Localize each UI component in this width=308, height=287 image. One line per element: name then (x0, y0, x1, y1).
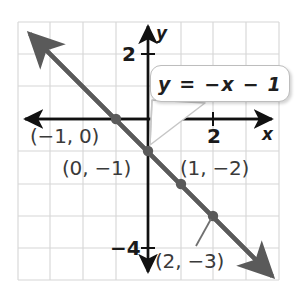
point-1-neg2 (176, 179, 186, 189)
point-label-0-neg1: (0, −1) (62, 158, 131, 178)
point-2-neg3 (208, 211, 218, 221)
point-0-neg1 (143, 146, 153, 156)
x-tick-label-2: 2 (207, 126, 221, 146)
equation-callout: y = −x − 1 (150, 65, 290, 102)
y-axis-label: y (156, 25, 167, 42)
coordinate-graph-figure: y = −x − 1 2 −4 2 y x (−1, 0) (0, −1) (1… (0, 0, 308, 287)
equation-text: y = −x − 1 (158, 73, 282, 95)
y-tick-label-neg4: −4 (110, 238, 141, 258)
leader-line-point-2-neg3 (196, 219, 211, 246)
point-label-2-neg3: (2, −3) (155, 251, 224, 271)
point-label-1-neg2: (1, −2) (180, 158, 249, 178)
x-axis-label: x (262, 126, 273, 143)
callout-tail (150, 100, 205, 145)
point-label-neg1-0: (−1, 0) (30, 126, 99, 146)
y-tick-label-2: 2 (122, 44, 136, 64)
point-neg1-0 (111, 114, 121, 124)
